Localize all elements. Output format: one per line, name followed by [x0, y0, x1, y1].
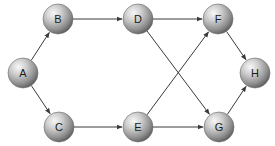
node-label: H: [251, 67, 259, 79]
node-D: D: [123, 4, 153, 34]
edge-A-C: [31, 86, 50, 114]
node-label: D: [134, 13, 142, 25]
node-A: A: [8, 58, 38, 88]
node-G: G: [204, 112, 234, 142]
edges-layer: [31, 19, 246, 127]
edge-G-H: [227, 86, 246, 114]
node-F: F: [203, 4, 233, 34]
node-label: E: [134, 121, 141, 133]
node-C: C: [44, 112, 74, 142]
node-label: C: [55, 121, 63, 133]
edge-A-B: [31, 32, 49, 60]
node-label: A: [19, 67, 27, 79]
node-E: E: [123, 112, 153, 142]
edge-F-H: [227, 31, 247, 59]
node-label: G: [215, 121, 224, 133]
edge-E-F: [147, 32, 209, 115]
graph-canvas: ABCDEFGH: [0, 0, 275, 146]
node-label: B: [54, 13, 61, 25]
nodes-layer: ABCDEFGH: [8, 4, 270, 142]
node-B: B: [43, 4, 73, 34]
node-label: F: [215, 13, 222, 25]
graph-diagram: ABCDEFGH: [0, 0, 275, 146]
node-H: H: [240, 58, 270, 88]
